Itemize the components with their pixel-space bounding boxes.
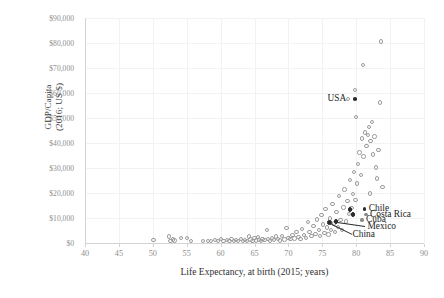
- data-point: [337, 194, 341, 198]
- data-point: [342, 187, 346, 191]
- x-tick-label: 90: [412, 249, 436, 258]
- x-tick-label: 50: [141, 249, 165, 258]
- data-point: [351, 192, 355, 196]
- data-point: [378, 100, 382, 104]
- x-tick-mark: [288, 244, 289, 247]
- y-tick-label: $90,000: [28, 14, 74, 23]
- data-point: [311, 224, 315, 228]
- annotation-label-usa: USA: [327, 93, 346, 103]
- data-point: [333, 230, 337, 234]
- data-point: [370, 120, 374, 124]
- x-tick-label: 60: [209, 249, 233, 258]
- scatter-chart: $0$10,000$20,000$30,000$40,000$50,000$60…: [0, 0, 444, 298]
- data-point: [356, 162, 360, 166]
- data-point: [353, 88, 357, 92]
- data-point: [348, 178, 352, 182]
- x-axis-title: Life Expectancy, at birth (2015; years): [85, 266, 424, 277]
- data-point: [375, 176, 379, 180]
- x-tick-label: 65: [243, 249, 267, 258]
- data-point: [300, 227, 304, 231]
- y-axis-line: [85, 18, 86, 244]
- data-point: [346, 97, 350, 101]
- data-point: [372, 134, 376, 138]
- gridline-vertical: [424, 18, 425, 243]
- x-tick-mark: [153, 244, 154, 247]
- gridline-vertical: [221, 18, 222, 243]
- data-point: [319, 213, 323, 217]
- data-point: [361, 63, 365, 67]
- x-tick-label: 45: [107, 249, 131, 258]
- y-tick-label: $20,000: [28, 189, 74, 198]
- highlighted-data-point: [348, 207, 353, 212]
- y-tick-label: $0: [28, 239, 74, 248]
- gridline-vertical: [255, 18, 256, 243]
- gridline-vertical: [288, 18, 289, 243]
- x-tick-label: 70: [276, 249, 300, 258]
- x-tick-label: 85: [378, 249, 402, 258]
- data-point: [367, 125, 371, 129]
- gridline-vertical: [356, 18, 357, 243]
- annotation-marker: [360, 218, 364, 222]
- data-point: [317, 228, 321, 232]
- data-point: [313, 232, 317, 236]
- x-tick-mark: [255, 244, 256, 247]
- data-point: [304, 236, 308, 240]
- gridline-vertical: [153, 18, 154, 243]
- data-point: [341, 205, 345, 209]
- x-tick-mark: [390, 244, 391, 247]
- data-point: [355, 181, 359, 185]
- data-point: [371, 152, 375, 156]
- data-point: [364, 144, 368, 148]
- data-point: [353, 198, 357, 202]
- data-point: [334, 210, 338, 214]
- data-point: [294, 230, 298, 234]
- y-axis-title-line2: (2016; US $): [54, 47, 65, 167]
- x-tick-label: 75: [310, 249, 334, 258]
- data-point: [151, 238, 155, 242]
- data-point: [315, 217, 319, 221]
- x-tick-mark: [119, 244, 120, 247]
- annotation-marker: [353, 97, 357, 101]
- x-tick-label: 80: [344, 249, 368, 258]
- data-point: [360, 136, 364, 140]
- data-point: [374, 165, 378, 169]
- data-point: [306, 220, 310, 224]
- y-axis-title-line1: GDP/Capita: [43, 47, 54, 167]
- data-point: [179, 236, 183, 240]
- data-point: [359, 173, 363, 177]
- annotation-label-china: China: [352, 229, 374, 239]
- data-point: [284, 226, 288, 230]
- x-tick-label: 40: [73, 249, 97, 258]
- data-point: [326, 232, 330, 236]
- data-point: [380, 185, 384, 189]
- x-tick-mark: [85, 244, 86, 247]
- data-point: [330, 202, 334, 206]
- data-point: [376, 148, 380, 152]
- data-point: [368, 191, 372, 195]
- data-point: [265, 228, 269, 232]
- highlighted-data-point: [351, 212, 356, 217]
- data-point: [345, 199, 349, 203]
- y-tick-label: $10,000: [28, 214, 74, 223]
- data-point: [361, 154, 365, 158]
- x-tick-mark: [187, 244, 188, 247]
- data-point: [366, 133, 370, 137]
- x-tick-mark: [221, 244, 222, 247]
- x-tick-mark: [356, 244, 357, 247]
- x-tick-mark: [424, 244, 425, 247]
- x-tick-mark: [322, 244, 323, 247]
- y-axis-title: GDP/Capita (2016; US $): [43, 47, 65, 167]
- x-tick-label: 55: [175, 249, 199, 258]
- data-point: [323, 207, 327, 211]
- gridline-vertical: [119, 18, 120, 243]
- data-point: [298, 237, 302, 241]
- gridline-vertical: [187, 18, 188, 243]
